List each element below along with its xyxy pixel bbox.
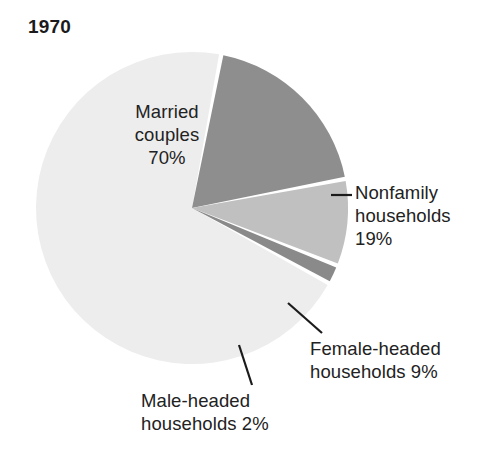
pie-label-male-headed-households: Male-headed households 2% xyxy=(141,389,341,435)
pie-label-female-headed-households: Female-headed households 9% xyxy=(310,337,490,383)
pie-chart-figure: 1970 Married couples 70% Nonfamily house… xyxy=(0,0,490,459)
pie-label-nonfamily-households: Nonfamily households 19% xyxy=(355,181,490,250)
pie-label-married-couples: Married couples 70% xyxy=(107,100,227,169)
